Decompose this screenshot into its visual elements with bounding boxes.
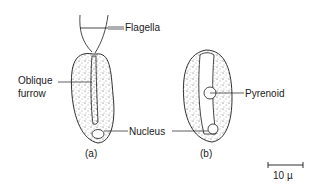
nucleus-a <box>92 130 104 139</box>
flagella-icon <box>80 15 108 53</box>
label-scale: 10 µ <box>273 170 293 181</box>
cell-a <box>71 15 114 143</box>
nucleus-b <box>208 124 218 134</box>
label-furrow: furrow <box>18 88 46 99</box>
scale-bar <box>268 162 303 168</box>
cell-b <box>183 50 232 142</box>
label-oblique: Oblique <box>18 75 52 86</box>
label-panel-a: (a) <box>85 148 97 159</box>
label-flagella: Flagella <box>125 22 160 33</box>
label-nucleus: Nucleus <box>129 126 165 137</box>
label-panel-b: (b) <box>200 148 212 159</box>
label-pyrenoid: Pyrenoid <box>245 88 284 99</box>
